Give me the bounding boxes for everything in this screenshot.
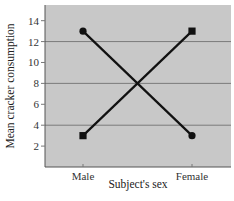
interaction-line-chart: 2468101214 MaleFemale Subject's sex Mean… xyxy=(0,0,234,201)
y-tick-label: 14 xyxy=(28,15,40,27)
y-tick-label: 8 xyxy=(34,77,40,89)
y-tick-label: 12 xyxy=(28,36,39,48)
x-axis-title: Subject's sex xyxy=(108,178,167,191)
x-tick-label: Male xyxy=(72,170,95,182)
y-tick-label: 6 xyxy=(34,98,40,110)
x-tick-label: Female xyxy=(176,170,208,182)
y-axis-title: Mean cracker consumption xyxy=(4,23,17,148)
plot-area xyxy=(45,5,231,167)
y-tick-label: 10 xyxy=(28,56,40,68)
y-axis-ticks: 2468101214 xyxy=(28,15,45,152)
y-tick-label: 4 xyxy=(34,119,40,131)
square-marker xyxy=(79,132,86,139)
square-marker xyxy=(188,28,195,35)
y-tick-label: 2 xyxy=(34,140,40,152)
circle-marker xyxy=(79,28,86,35)
circle-marker xyxy=(188,132,195,139)
